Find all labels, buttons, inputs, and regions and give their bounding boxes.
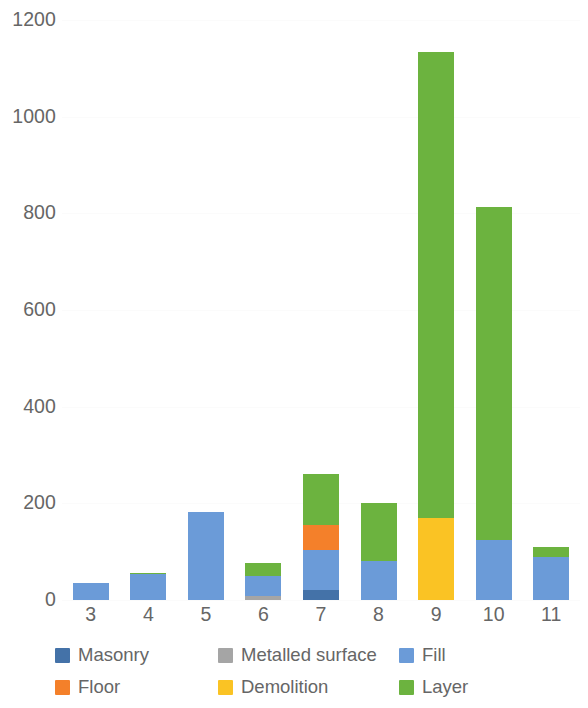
legend-item[interactable]: Fill	[399, 646, 446, 665]
legend-swatch-icon	[55, 680, 70, 695]
bar-segment[interactable]	[73, 583, 109, 600]
bar-segment[interactable]	[476, 207, 512, 540]
legend-swatch-icon	[399, 680, 414, 695]
legend-item[interactable]: Demolition	[218, 678, 328, 697]
x-axis: 34567891011	[62, 604, 580, 638]
legend-label: Masonry	[78, 646, 149, 665]
x-tick-label: 9	[407, 604, 465, 625]
stacked-bar-chart: 020040060080010001200 34567891011 Masonr…	[0, 0, 588, 708]
bar-group[interactable]	[188, 512, 224, 600]
bar-segment[interactable]	[303, 550, 339, 590]
legend-item[interactable]: Metalled surface	[218, 646, 377, 665]
y-tick-label: 600	[23, 300, 56, 320]
bar-group[interactable]	[418, 52, 454, 600]
legend-label: Demolition	[241, 678, 328, 697]
legend-label: Layer	[422, 678, 468, 697]
legend-swatch-icon	[218, 680, 233, 695]
legend-swatch-icon	[55, 648, 70, 663]
bar-segment[interactable]	[476, 540, 512, 600]
x-tick-label: 11	[522, 604, 580, 625]
y-tick-label: 0	[45, 590, 56, 610]
legend-item[interactable]: Floor	[55, 678, 120, 697]
legend-label: Fill	[422, 646, 446, 665]
legend-item[interactable]: Layer	[399, 678, 468, 697]
bar-segment[interactable]	[533, 557, 569, 600]
legend-swatch-icon	[399, 648, 414, 663]
bar-segment[interactable]	[361, 561, 397, 600]
bar-group[interactable]	[303, 474, 339, 600]
legend-item[interactable]: Masonry	[55, 646, 149, 665]
bar-group[interactable]	[476, 207, 512, 600]
bar-segment[interactable]	[245, 563, 281, 576]
bar-segment[interactable]	[418, 518, 454, 600]
y-axis: 020040060080010001200	[0, 0, 56, 708]
bar-segment[interactable]	[188, 512, 224, 600]
chart-legend: MasonryMetalled surfaceFillFloorDemoliti…	[55, 646, 575, 704]
x-tick-label: 10	[465, 604, 523, 625]
y-tick-label: 1200	[12, 10, 56, 30]
y-tick-label: 1000	[12, 107, 56, 127]
y-tick-label: 800	[23, 203, 56, 223]
bars-layer	[62, 20, 580, 600]
y-tick-label: 400	[23, 397, 56, 417]
bar-group[interactable]	[130, 573, 166, 600]
x-tick-label: 5	[177, 604, 235, 625]
x-tick-label: 7	[292, 604, 350, 625]
bar-group[interactable]	[73, 583, 109, 600]
bar-group[interactable]	[361, 503, 397, 600]
bar-segment[interactable]	[533, 547, 569, 558]
x-tick-label: 8	[350, 604, 408, 625]
legend-swatch-icon	[218, 648, 233, 663]
bar-segment[interactable]	[245, 576, 281, 596]
x-tick-label: 4	[120, 604, 178, 625]
bar-segment[interactable]	[418, 52, 454, 517]
bar-segment[interactable]	[130, 574, 166, 600]
bar-segment[interactable]	[303, 474, 339, 525]
bar-segment[interactable]	[303, 525, 339, 550]
bar-segment[interactable]	[303, 590, 339, 600]
bar-group[interactable]	[533, 547, 569, 600]
legend-label: Floor	[78, 678, 120, 697]
gridline	[62, 600, 580, 601]
bar-segment[interactable]	[361, 503, 397, 561]
legend-label: Metalled surface	[241, 646, 377, 665]
bar-segment[interactable]	[245, 596, 281, 600]
x-tick-label: 6	[235, 604, 293, 625]
y-tick-label: 200	[23, 493, 56, 513]
bar-group[interactable]	[245, 563, 281, 600]
x-tick-label: 3	[62, 604, 120, 625]
